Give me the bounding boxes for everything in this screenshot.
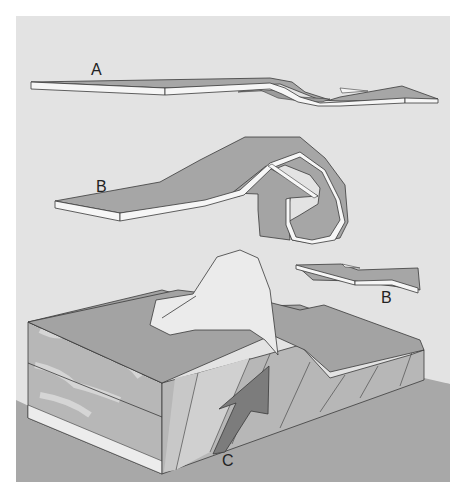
geology-diagram: A B B C xyxy=(0,0,464,496)
label-a: A xyxy=(91,61,102,78)
label-b-upper: B xyxy=(96,178,107,195)
label-c: C xyxy=(222,452,234,469)
label-b-lower: B xyxy=(381,289,392,306)
